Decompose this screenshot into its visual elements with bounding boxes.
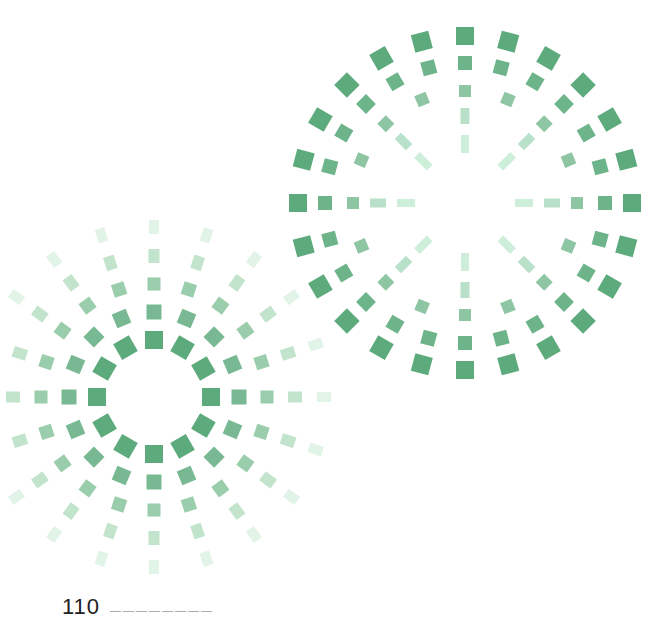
ring-square: [12, 346, 29, 361]
ring-square: [334, 72, 359, 97]
ring-square: [111, 281, 127, 297]
ring-square: [191, 356, 216, 381]
ring-square: [577, 263, 596, 282]
ring-square: [83, 446, 104, 467]
ring-square: [592, 158, 609, 175]
ring-square: [500, 299, 516, 315]
ring-square: [615, 149, 637, 171]
ring-square: [597, 107, 622, 132]
ring-square: [356, 292, 376, 312]
ring-square: [592, 231, 609, 248]
ring-square: [307, 443, 323, 457]
ring-square: [149, 560, 159, 574]
ring-square: [458, 56, 472, 70]
ring-square: [200, 227, 214, 243]
ring-square: [31, 306, 49, 323]
ring-square: [38, 354, 54, 370]
ring-square: [211, 297, 229, 315]
ring-square: [561, 152, 577, 168]
ring-square: [411, 353, 433, 375]
ring-square: [288, 392, 302, 403]
ring-square: [414, 299, 430, 315]
ring-square: [493, 59, 510, 76]
ring-square: [232, 390, 247, 405]
ring-square: [347, 197, 359, 209]
ring-square: [414, 236, 432, 254]
ring-square: [293, 149, 315, 171]
ring-square: [554, 94, 574, 114]
ring-square: [280, 346, 297, 361]
ring-square: [461, 282, 470, 298]
ring-square: [397, 199, 415, 207]
ring-square: [145, 331, 163, 349]
ring-square: [515, 199, 533, 207]
ring-square: [554, 292, 574, 312]
ring-square: [317, 392, 331, 402]
ring-square: [113, 434, 138, 459]
ring-square: [46, 526, 62, 543]
ring-square: [536, 335, 561, 360]
ring-square: [203, 326, 224, 347]
ring-square: [66, 355, 86, 375]
ring-square: [113, 335, 138, 360]
ring-square: [498, 236, 516, 254]
ring-square: [283, 289, 300, 305]
ring-square: [170, 434, 195, 459]
ring-square: [458, 336, 472, 350]
ring-square: [246, 526, 262, 543]
ring-square: [459, 85, 471, 97]
ring-square: [356, 94, 376, 114]
ring-square: [518, 256, 536, 274]
ring-square: [259, 306, 277, 323]
ring-square: [95, 550, 109, 566]
ring-square: [170, 335, 195, 360]
ring-square: [95, 227, 109, 243]
ring-square: [181, 496, 197, 512]
ring-square: [54, 454, 72, 472]
page-number: 110: [62, 594, 100, 618]
ring-square: [420, 59, 437, 76]
ring-square: [6, 392, 20, 403]
ring-square: [500, 92, 516, 108]
ring-square: [414, 152, 432, 170]
ring-square: [385, 72, 404, 91]
ring-square: [8, 489, 25, 505]
ring-square: [83, 326, 104, 347]
ring-square: [354, 152, 370, 168]
ring-square: [149, 531, 160, 545]
ring-square: [561, 238, 577, 254]
ring-square: [395, 133, 413, 151]
ring-square: [385, 315, 404, 334]
ring-square: [149, 249, 160, 263]
ring-square: [228, 274, 245, 292]
ring-square: [253, 424, 269, 440]
ring-square: [8, 289, 25, 305]
ring-square: [369, 46, 394, 71]
ring-square: [597, 274, 622, 299]
ring-square: [147, 305, 162, 320]
ring-square: [536, 274, 553, 291]
ring-square: [318, 196, 332, 210]
ring-square: [259, 471, 277, 488]
ring-square: [497, 353, 519, 375]
ring-square: [190, 523, 205, 540]
ring-square: [498, 152, 516, 170]
ring-square: [369, 335, 394, 360]
ring-square: [211, 479, 229, 497]
ring-square: [103, 255, 118, 272]
ring-square: [79, 297, 97, 315]
ring-square: [0, 338, 1, 352]
ring-square: [420, 330, 437, 347]
ring-square: [293, 235, 315, 257]
ring-square: [461, 135, 469, 153]
ring-square: [190, 255, 205, 272]
ring-square: [79, 479, 97, 497]
ring-square: [307, 338, 323, 352]
ring-square: [280, 433, 297, 448]
ring-square: [103, 523, 118, 540]
ring-square: [35, 391, 48, 404]
ring-square: [571, 197, 583, 209]
ring-square: [145, 445, 163, 463]
ring-square: [177, 466, 197, 486]
